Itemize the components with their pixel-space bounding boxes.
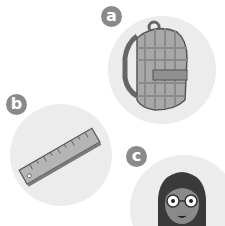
girl-face-icon [152,170,212,226]
label-badge-c: c [126,146,147,167]
backpack-icon [115,18,200,113]
ruler-icon [18,120,103,195]
label-badge-b: b [6,94,27,115]
